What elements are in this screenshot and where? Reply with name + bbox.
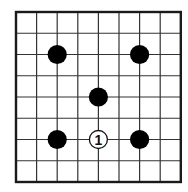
black-stone-icon — [89, 87, 108, 106]
black-stone — [89, 87, 108, 106]
black-stone — [130, 45, 149, 64]
black-stone — [130, 130, 149, 149]
black-stone-icon — [48, 45, 67, 64]
black-stone-icon — [130, 130, 149, 149]
black-stone-icon — [130, 45, 149, 64]
black-stone — [48, 45, 67, 64]
move-number-label: 1 — [95, 132, 103, 148]
black-stone-icon — [48, 130, 67, 149]
go-board: 1 — [0, 0, 188, 192]
white-stone: 1 — [89, 131, 107, 149]
black-stone — [48, 130, 67, 149]
